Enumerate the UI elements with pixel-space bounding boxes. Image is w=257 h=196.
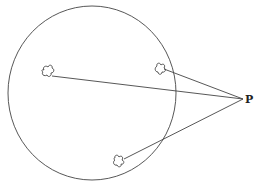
lower-blob-icon: [114, 155, 124, 167]
line-left-blob-to-p: [52, 76, 243, 99]
upper-right-blob-icon: [155, 63, 165, 74]
point-p-label: P: [245, 93, 253, 106]
left-blob-icon: [42, 65, 54, 76]
circle-boundary: [8, 6, 176, 180]
diagram-canvas: P: [0, 0, 257, 196]
line-lower-blob-to-p: [124, 99, 243, 159]
